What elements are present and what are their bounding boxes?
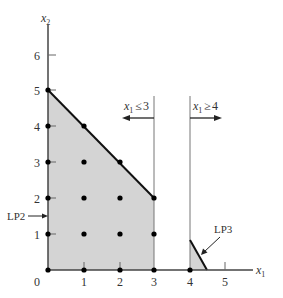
y-tick-label-6: 6 bbox=[34, 49, 40, 63]
origin-label: 0 bbox=[34, 275, 40, 289]
branch-and-bound-diagram: 6 5 4 3 2 1 0 1 2 3 4 5 x2 x1 x1≤3 x1≥4 … bbox=[0, 0, 283, 298]
arrow-right-icon bbox=[190, 115, 222, 121]
lp2-pointer-arrow-icon bbox=[28, 214, 48, 219]
lp3-pointer-arrow-icon bbox=[201, 237, 220, 255]
y-tick-label-4: 4 bbox=[34, 120, 40, 134]
x-tick-label-5: 5 bbox=[222, 275, 228, 289]
lp2-label: LP2 bbox=[7, 210, 25, 222]
lp2-region bbox=[48, 90, 154, 270]
lp3-label: LP3 bbox=[214, 223, 233, 235]
constraint-label-x1-le-3: x1≤3 bbox=[123, 99, 149, 115]
x-tick-label-1: 1 bbox=[81, 275, 87, 289]
y-tick-label-5: 5 bbox=[34, 84, 40, 98]
x-tick-label-3: 3 bbox=[151, 275, 157, 289]
x-tick-label-4: 4 bbox=[187, 275, 193, 289]
y-tick-label-2: 2 bbox=[34, 192, 40, 206]
x-axis-label: x1 bbox=[255, 263, 265, 279]
arrow-left-icon bbox=[122, 115, 154, 121]
constraint-label-x1-ge-4: x1≥4 bbox=[192, 99, 218, 115]
y-tick-label-1: 1 bbox=[34, 228, 40, 242]
y-axis-label: x2 bbox=[40, 11, 50, 27]
x-tick-label-2: 2 bbox=[117, 275, 123, 289]
y-tick-label-3: 3 bbox=[34, 156, 40, 170]
